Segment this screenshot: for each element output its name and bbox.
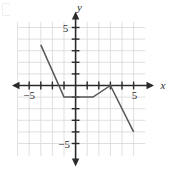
x-axis-left-arrowhead [12, 82, 20, 89]
y-axis [72, 12, 80, 167]
y-axis-negative-tick-label: −5 [58, 138, 70, 150]
graph-canvas: −5 5 5 −5 x y [0, 0, 175, 176]
y-axis-bottom-arrowhead [72, 159, 79, 167]
grid-lines [18, 22, 146, 156]
x-axis-positive-tick-label: 5 [132, 89, 138, 101]
coordinate-plane-graph: −5 5 5 −5 x y [0, 0, 175, 176]
x-axis-right-arrowhead [147, 82, 155, 89]
x-axis-label: x [160, 79, 166, 91]
y-axis-positive-tick-label: 5 [63, 22, 69, 34]
x-axis-negative-tick-label: −5 [23, 89, 35, 101]
y-axis-top-arrowhead [72, 12, 79, 20]
y-axis-label: y [76, 1, 82, 13]
page-corner-artifact [2, 3, 10, 16]
